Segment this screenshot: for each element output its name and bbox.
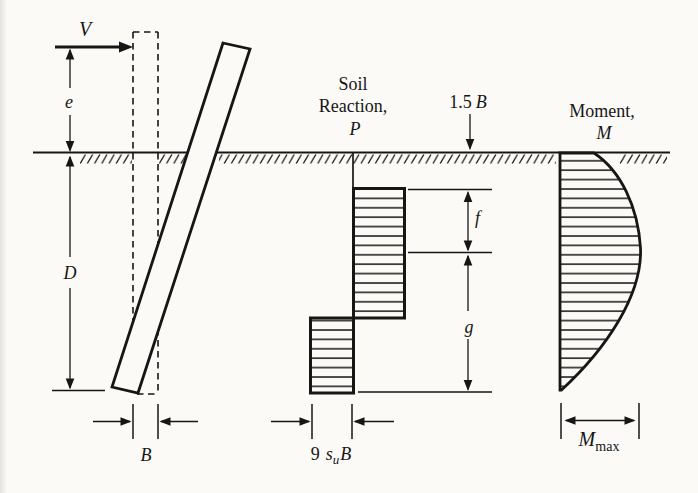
pressure-magnitude-label: 9suB [311, 444, 352, 467]
embedment-dimension: D [52, 157, 105, 391]
lower-block-hatch [311, 318, 354, 393]
soil-reaction-symbol: P [349, 119, 361, 139]
pressure-width-dimension: 9suB [271, 404, 394, 467]
f-dimension: f [408, 190, 492, 253]
g-label: g [465, 317, 474, 337]
pile-width-label: B [141, 445, 152, 465]
lateral-force-arrow: V [55, 18, 133, 53]
embedment-label: D [63, 263, 77, 283]
force-arrowhead-icon [119, 42, 133, 53]
tilted-pile [112, 43, 250, 393]
surface-offset-callout: 1.5B [449, 92, 487, 149]
eccentricity-dimension: e [65, 50, 73, 151]
soil-hatch-segment [159, 154, 186, 164]
figure-page: V e D B [0, 0, 698, 493]
moment-shape-hatch [560, 153, 641, 390]
soil-hatch-segment [80, 154, 132, 164]
pile-group: V e D B [52, 18, 250, 465]
soil-hatch-segment [219, 154, 556, 164]
pile-width-dimension: B [93, 404, 198, 465]
mmax-dimension: Mmax [561, 403, 639, 454]
upper-pressure-block [354, 189, 405, 319]
moment-group: Moment, M Mmax [560, 101, 641, 454]
lower-pressure-block [311, 318, 354, 393]
soil-reaction-title-line2: Reaction, [319, 96, 387, 116]
upper-block-hatch [354, 189, 405, 319]
force-label: V [79, 18, 94, 40]
broms-pile-diagram: V e D B [0, 0, 698, 493]
surface-offset-label: 1.5B [449, 92, 487, 112]
soil-reaction-title-line1: Soil [338, 74, 367, 94]
soil-hatch-segment [620, 154, 667, 164]
eccentricity-label: e [65, 92, 73, 112]
moment-diagram [560, 153, 641, 390]
moment-symbol: M [596, 123, 613, 143]
mmax-label: Mmax [578, 428, 620, 454]
moment-title: Moment, [569, 101, 635, 121]
f-label: f [475, 208, 483, 228]
soil-reaction-group: Soil Reaction, P 1.5B [271, 74, 492, 467]
